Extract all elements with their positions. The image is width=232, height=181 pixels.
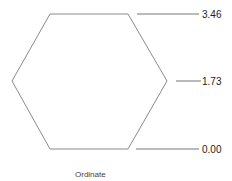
hexagon-diagram: [0, 0, 232, 181]
label-top: 3.46: [202, 10, 221, 20]
axis-title: Ordinate: [75, 170, 106, 179]
label-middle: 1.73: [202, 77, 221, 87]
label-bottom: 0.00: [202, 145, 221, 155]
hexagon: [12, 14, 167, 149]
